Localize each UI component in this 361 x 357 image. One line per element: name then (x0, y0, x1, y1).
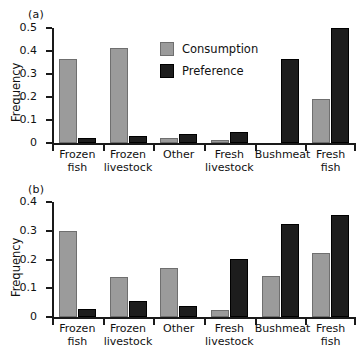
bar-consumption-frozen-livestock (110, 277, 128, 317)
legend-swatch-consumption-icon (160, 42, 174, 56)
category-label-fresh-fish: Freshfish (305, 149, 356, 174)
y-tick-label: 0.4 (20, 44, 38, 57)
bar-preference-frozen-fish (78, 309, 96, 317)
bar-preference-bushmeat (281, 224, 299, 317)
panel-a: (a) Frequency 00.10.20.30.40.5 Frozenfis… (0, 0, 361, 181)
category-label-other: Other (153, 323, 204, 336)
bar-consumption-other (160, 138, 178, 143)
figure-two-panel-bar-chart: (a) Frequency 00.10.20.30.40.5 Frozenfis… (0, 0, 361, 357)
y-tick-label: 0.3 (20, 67, 38, 80)
bar-preference-fresh-fish (331, 215, 349, 317)
bar-preference-frozen-livestock (129, 301, 147, 317)
y-tick-label: 0 (30, 136, 37, 149)
bar-preference-fresh-livestock (230, 259, 248, 317)
y-tick-mark: 0.1 (46, 119, 52, 121)
panel-b: (b) Frequency 00.10.20.30.4 FrozenfishFr… (0, 181, 361, 357)
panel-b-category-labels: FrozenfishFrozenlivestockOtherFreshlives… (52, 323, 356, 353)
bar-preference-fresh-fish (331, 28, 349, 143)
bar-preference-bushmeat (281, 59, 299, 143)
panel-a-tag: (a) (28, 8, 44, 21)
category-label-frozen-livestock: Frozenlivestock (103, 149, 154, 174)
y-tick-label: 0.4 (20, 195, 38, 208)
y-tick-label: 0 (30, 310, 37, 323)
y-tick-mark: 0.2 (46, 259, 52, 261)
category-label-frozen-livestock: Frozenlivestock (103, 323, 154, 348)
bar-consumption-frozen-fish (59, 59, 77, 143)
bar-consumption-frozen-fish (59, 231, 77, 317)
bar-preference-frozen-livestock (129, 136, 147, 143)
category-label-frozen-fish: Frozenfish (52, 149, 103, 174)
y-tick-label: 0.1 (20, 281, 38, 294)
legend-item-consumption: Consumption (160, 40, 258, 58)
legend-label-preference: Preference (182, 64, 244, 78)
y-tick-mark: 0.5 (46, 27, 52, 29)
bar-consumption-other (160, 268, 178, 317)
y-tick-label: 0.3 (20, 223, 38, 236)
legend-label-consumption: Consumption (182, 42, 258, 56)
y-tick-mark: 0.4 (46, 201, 52, 203)
bar-consumption-frozen-livestock (110, 48, 128, 143)
bar-preference-frozen-fish (78, 138, 96, 143)
category-label-bushmeat: Bushmeat (255, 149, 306, 162)
legend-item-preference: Preference (160, 62, 258, 80)
y-tick-mark: 0.1 (46, 287, 52, 289)
y-tick-mark: 0.4 (46, 50, 52, 52)
y-tick-label: 0.2 (20, 252, 38, 265)
category-label-fresh-livestock: Freshlivestock (204, 323, 255, 348)
y-tick-mark: 0.3 (46, 73, 52, 75)
y-tick-label: 0.5 (20, 21, 38, 34)
y-tick-mark: 0.2 (46, 96, 52, 98)
bar-consumption-fresh-livestock (211, 310, 229, 317)
bar-consumption-fresh-livestock (211, 140, 229, 143)
bar-consumption-fresh-fish (312, 253, 330, 317)
panel-b-y-axis-line (52, 202, 54, 317)
bar-consumption-fresh-fish (312, 99, 330, 143)
panel-a-y-axis-line (52, 28, 54, 143)
bar-consumption-bushmeat (262, 276, 280, 317)
y-tick-mark: 0.3 (46, 230, 52, 232)
category-label-other: Other (153, 149, 204, 162)
category-label-bushmeat: Bushmeat (255, 323, 306, 336)
y-tick-label: 0.1 (20, 113, 38, 126)
bar-preference-other (179, 306, 197, 318)
legend: Consumption Preference (160, 40, 258, 84)
category-label-fresh-fish: Freshfish (305, 323, 356, 348)
panel-a-category-labels: FrozenfishFrozenlivestockOtherFreshlives… (52, 149, 356, 179)
category-label-frozen-fish: Frozenfish (52, 323, 103, 348)
y-tick-label: 0.2 (20, 90, 38, 103)
bar-preference-other (179, 134, 197, 143)
category-label-fresh-livestock: Freshlivestock (204, 149, 255, 174)
bar-preference-fresh-livestock (230, 132, 248, 143)
legend-swatch-preference-icon (160, 64, 174, 78)
panel-b-plot-area: 00.10.20.30.4 (52, 202, 356, 317)
